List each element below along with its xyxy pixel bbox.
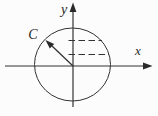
vector-c-line — [52, 46, 73, 66]
x-axis-label: x — [134, 43, 141, 58]
y-axis-label: y — [59, 2, 68, 17]
vector-c-label: C — [28, 27, 38, 42]
diagram-canvas: C y x — [0, 0, 158, 116]
y-axis-arrowhead-icon — [70, 3, 77, 13]
x-axis-arrowhead-icon — [143, 63, 153, 70]
circle-axes-diagram: C y x — [0, 0, 158, 116]
